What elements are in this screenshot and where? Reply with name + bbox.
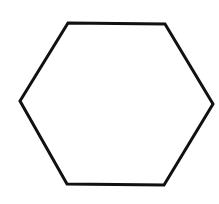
hexagon-outline xyxy=(20,23,213,185)
diagram-canvas xyxy=(0,0,219,204)
hexagon-figure xyxy=(0,0,219,204)
